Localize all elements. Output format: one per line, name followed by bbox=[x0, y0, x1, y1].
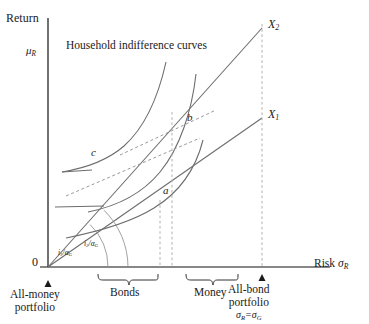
x-axis-label-text: Risk bbox=[314, 257, 335, 269]
x1-sub: 1 bbox=[275, 113, 279, 122]
point-c-label: c bbox=[91, 147, 96, 158]
point-a-label: a bbox=[163, 185, 169, 196]
y-axis-label: Return bbox=[6, 12, 39, 24]
marker-all-bond bbox=[259, 274, 266, 281]
i1-num-sub: 1 bbox=[60, 252, 62, 257]
sigma-g-char: σ bbox=[252, 309, 257, 320]
origin-label: 0 bbox=[32, 256, 38, 268]
all-bond-portfolio-annotation: All-bond portfolio σR=σG bbox=[228, 284, 270, 320]
opportunity-line-x2 bbox=[48, 28, 262, 267]
opportunity-line-x1-label: X1 bbox=[268, 108, 279, 120]
i1-den: α bbox=[65, 248, 69, 257]
sigma-r-sub: R bbox=[241, 314, 245, 321]
bracket-label-bonds: Bonds bbox=[110, 287, 139, 299]
point-b-label: b bbox=[187, 112, 193, 123]
dashed-tangent-lower bbox=[66, 138, 200, 196]
x-axis-symbol-char: σ bbox=[338, 257, 344, 269]
all-money-line1: All-money bbox=[10, 289, 60, 301]
slope-label-i1: i1/αG bbox=[58, 249, 72, 257]
y-axis-symbol-char: μ bbox=[26, 44, 32, 56]
marker-all-money bbox=[45, 280, 52, 287]
bracket-bonds bbox=[98, 274, 158, 285]
portfolio-choice-diagram: Return μR Household indifference curves … bbox=[0, 0, 369, 324]
slope-label-i2: i2/αG bbox=[84, 240, 98, 248]
indifference-curve-mid bbox=[88, 74, 196, 212]
i2-num-sub: 2 bbox=[86, 243, 88, 248]
sigma-g-sub: G bbox=[257, 314, 262, 321]
all-bond-equation: σR=σG bbox=[228, 310, 270, 320]
dashed-tangent-upper bbox=[120, 110, 216, 155]
i2-den-sub: G bbox=[95, 243, 99, 248]
chart-note: Household indifference curves bbox=[66, 40, 207, 52]
opportunity-line-x2-label: X2 bbox=[268, 18, 279, 30]
indifference-curve-high bbox=[62, 62, 166, 172]
x-axis-symbol-sub: R bbox=[344, 262, 349, 271]
all-money-line2: portfolio bbox=[10, 302, 60, 314]
i1-den-sub: G bbox=[69, 252, 73, 257]
equals-sign: = bbox=[245, 309, 252, 320]
x-axis-label: RiskσR bbox=[314, 258, 348, 270]
all-bond-line2: portfolio bbox=[228, 297, 270, 309]
indifference-curve-flat-segment bbox=[55, 206, 104, 207]
opportunity-line-x1 bbox=[48, 118, 262, 267]
all-bond-line1: All-bond bbox=[228, 284, 270, 296]
x2-sub: 2 bbox=[275, 23, 279, 32]
y-axis-symbol-sub: R bbox=[32, 50, 36, 58]
i2-den: α bbox=[91, 239, 95, 248]
x-axis-symbol: σR bbox=[338, 257, 348, 269]
y-axis-symbol: μR bbox=[26, 45, 36, 56]
all-money-portfolio-annotation: All-money portfolio bbox=[10, 289, 60, 313]
bracket-label-money: Money bbox=[194, 287, 227, 299]
